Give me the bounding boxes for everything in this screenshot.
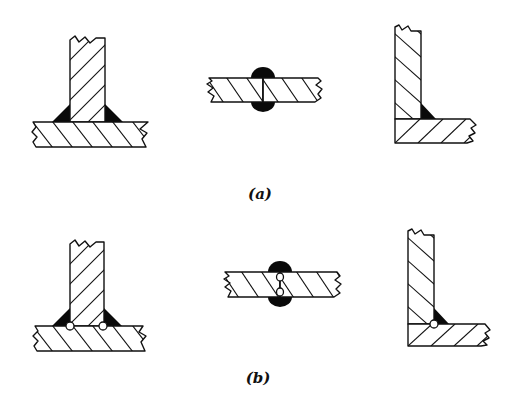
vertical-plate [395,25,421,119]
weld-joint-figure: (a) (b) [0,0,520,406]
butt-joint-b [215,261,360,307]
inside-fillet-weld [421,103,436,119]
root-void-bottom [277,288,284,296]
caption-b: (b) [246,369,271,387]
root-void-right [99,322,107,330]
vertical-plate [70,240,104,326]
top-bead [251,67,275,78]
fillet-weld-left [52,104,70,122]
butt-joint-a [200,67,345,112]
t-joint-b [25,214,160,374]
vertical-plate [70,36,105,122]
corner-joint-a [385,2,489,143]
bottom-bead [268,297,292,307]
root-void [430,320,438,328]
bottom-bead [251,102,275,112]
caption-a: (a) [248,185,272,203]
t-joint-a [25,10,180,170]
root-void-top [277,273,284,281]
figure-canvas [0,0,520,406]
left-plate [224,272,280,297]
corner-joint-b [398,206,501,346]
right-plate [263,78,322,102]
fillet-weld-right [105,104,123,122]
top-bead [268,261,292,272]
root-void-left [66,322,74,330]
